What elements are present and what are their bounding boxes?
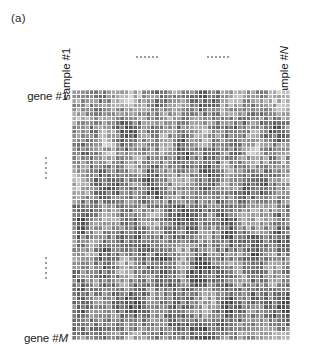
column-ellipsis-left (136, 56, 158, 58)
figure-panel: (a) sample #1 sample #N gene #1 gene #M (0, 0, 315, 363)
column-axis-last-label-variable: N (278, 46, 290, 54)
row-ellipsis-upper (45, 157, 47, 179)
row-axis-last-label-text: gene # (24, 332, 59, 344)
row-axis-first-label: gene #1 (27, 90, 68, 102)
row-ellipsis-lower (45, 257, 47, 279)
column-ellipsis-right (207, 56, 229, 58)
panel-label: (a) (11, 12, 26, 24)
heatmap-grid (72, 90, 290, 340)
row-axis-last-label-variable: M (59, 332, 68, 344)
row-axis-last-label: gene #M (24, 332, 68, 344)
heatmap-plot-area (72, 90, 290, 340)
